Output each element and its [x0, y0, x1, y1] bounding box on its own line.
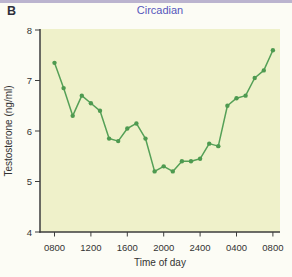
plot-area	[40, 29, 280, 232]
data-point	[89, 101, 93, 105]
x-tick-label: 1200	[80, 242, 101, 253]
data-point	[234, 96, 238, 100]
data-point	[253, 76, 257, 80]
data-point	[116, 139, 120, 143]
data-point	[52, 61, 56, 65]
figure-panel: B Circadian 4567808001200160020002400040…	[0, 0, 292, 277]
data-point	[152, 169, 156, 173]
data-point	[143, 136, 147, 140]
data-point	[271, 48, 275, 52]
data-point	[107, 136, 111, 140]
x-tick-label: 0400	[226, 242, 247, 253]
data-point	[207, 141, 211, 145]
data-point	[134, 121, 138, 125]
data-point	[225, 104, 229, 108]
x-tick-label: 2400	[190, 242, 211, 253]
data-point	[171, 169, 175, 173]
data-point	[80, 93, 84, 97]
data-point	[71, 114, 75, 118]
circadian-line-chart: 456780800120016002000240004000800 Testos…	[0, 0, 292, 277]
data-point	[61, 86, 65, 90]
y-tick-label: 7	[27, 75, 32, 86]
x-tick-label: 1600	[117, 242, 138, 253]
plot-background-layer	[40, 29, 280, 232]
y-tick-label: 5	[27, 176, 32, 187]
data-point	[162, 164, 166, 168]
data-point	[243, 93, 247, 97]
data-point	[180, 159, 184, 163]
data-point	[125, 126, 129, 130]
y-axis-title: Testosterone (ng/ml)	[3, 85, 14, 176]
y-tick-label: 4	[27, 227, 32, 238]
x-axis-title: Time of day	[134, 257, 186, 268]
x-tick-label: 2000	[153, 242, 174, 253]
data-point	[216, 144, 220, 148]
x-tick-label: 0800	[44, 242, 65, 253]
x-tick-label: 0800	[262, 242, 283, 253]
data-point	[98, 109, 102, 113]
y-tick-label: 8	[27, 25, 32, 36]
data-point	[189, 159, 193, 163]
data-point	[262, 68, 266, 72]
y-tick-label: 6	[27, 126, 32, 137]
data-point	[198, 157, 202, 161]
